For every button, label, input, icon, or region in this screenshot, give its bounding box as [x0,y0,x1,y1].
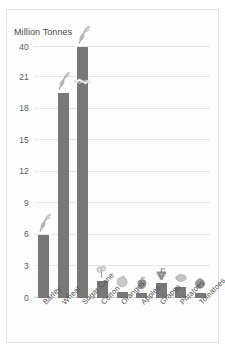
bar[interactable] [58,93,69,298]
wheat-stalk-icon [55,71,72,91]
y-axis-tick-label: 18 [7,104,29,113]
y-axis-tick-label: 15 [7,136,29,145]
bar-group[interactable] [117,47,128,298]
plot-area: 40211815129630 [34,47,210,298]
bar-group[interactable] [38,47,49,298]
y-axis-tick-label: 21 [7,73,29,82]
y-axis-tick-label: 40 [7,43,29,52]
bar-group[interactable] [97,47,108,298]
bar-group[interactable] [175,47,186,298]
bar-group[interactable] [156,47,167,298]
y-axis-tick-label: 0 [7,294,29,303]
bar-group[interactable] [136,47,147,298]
y-axis-tick-label: 9 [7,199,29,208]
bar-group[interactable] [195,47,206,298]
bar[interactable] [77,47,88,298]
grapes-bunch-icon [154,265,168,281]
barley-stalk-icon [35,213,52,233]
x-axis-tick-labels: BarleyWheatSugar CaneCottonOrangesApples… [34,300,210,348]
bar-group[interactable] [77,47,88,298]
bar[interactable] [38,235,49,298]
y-axis-tick-label: 3 [7,262,29,271]
y-axis-title: Million Tonnes [14,27,72,37]
y-axis-tick-label: 12 [7,167,29,176]
y-axis-tick-label: 6 [7,231,29,240]
chart-page: Million Tonnes 40211815129630 BarleyWhea… [0,0,225,352]
bar-group[interactable] [58,47,69,298]
